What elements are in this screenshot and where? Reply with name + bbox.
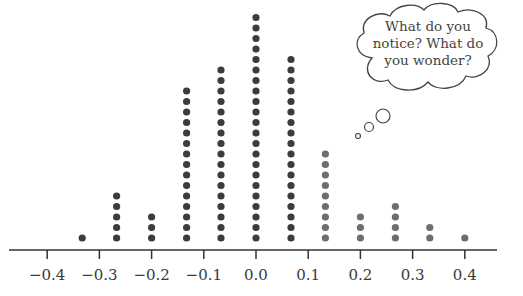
data-dot xyxy=(217,87,224,94)
data-dot xyxy=(217,171,224,178)
data-dot xyxy=(252,87,259,94)
data-dot xyxy=(322,213,329,220)
data-dot xyxy=(252,234,259,241)
data-dot xyxy=(252,14,259,21)
data-dot xyxy=(252,182,259,189)
dot-column xyxy=(426,224,433,242)
dot-column xyxy=(183,87,190,241)
data-dot xyxy=(183,224,190,231)
data-dot xyxy=(183,87,190,94)
data-dot xyxy=(183,171,190,178)
data-dot xyxy=(357,213,364,220)
data-dot xyxy=(217,98,224,105)
data-dot xyxy=(148,234,155,241)
data-dot xyxy=(287,119,294,126)
data-dot xyxy=(287,108,294,115)
data-dot xyxy=(287,224,294,231)
data-dot xyxy=(217,224,224,231)
data-dot xyxy=(252,119,259,126)
data-dot xyxy=(183,161,190,168)
data-dot xyxy=(392,203,399,210)
data-dot xyxy=(217,203,224,210)
data-dot xyxy=(287,87,294,94)
bubble-line-3: you wonder? xyxy=(363,52,493,69)
data-dot xyxy=(287,77,294,84)
data-dot xyxy=(426,224,433,231)
data-dot xyxy=(217,150,224,157)
data-dot xyxy=(183,213,190,220)
bubble-line-1: What do you xyxy=(363,18,493,35)
data-dot xyxy=(287,234,294,241)
data-dot xyxy=(183,140,190,147)
dot-column xyxy=(113,192,120,241)
data-dot xyxy=(113,203,120,210)
x-tick-label: −0.3 xyxy=(81,266,117,284)
data-dot xyxy=(287,129,294,136)
data-dot xyxy=(287,150,294,157)
data-dot xyxy=(252,171,259,178)
data-dot xyxy=(183,108,190,115)
data-dot xyxy=(183,234,190,241)
data-dot xyxy=(287,182,294,189)
thought-circle-medium xyxy=(365,123,374,132)
data-dot xyxy=(148,224,155,231)
thought-circle-small xyxy=(356,134,361,139)
data-dot xyxy=(252,35,259,42)
dot-column xyxy=(392,203,399,242)
data-dot xyxy=(357,224,364,231)
data-dot xyxy=(252,56,259,63)
data-dot xyxy=(217,192,224,199)
data-dot xyxy=(287,192,294,199)
data-dot xyxy=(322,182,329,189)
data-dot xyxy=(113,213,120,220)
data-dot xyxy=(217,213,224,220)
data-dot xyxy=(183,182,190,189)
data-dot xyxy=(392,234,399,241)
data-dot xyxy=(113,224,120,231)
data-dot xyxy=(148,213,155,220)
x-tick-label: −0.1 xyxy=(186,266,222,284)
data-dot xyxy=(322,161,329,168)
dot-column xyxy=(148,213,155,241)
data-dot xyxy=(287,161,294,168)
data-dot xyxy=(287,98,294,105)
data-dot xyxy=(252,192,259,199)
data-dot xyxy=(217,77,224,84)
data-dot xyxy=(79,234,86,241)
data-dot xyxy=(252,77,259,84)
data-dot xyxy=(322,192,329,199)
data-dot xyxy=(217,140,224,147)
data-dot xyxy=(392,224,399,231)
data-dot xyxy=(252,140,259,147)
data-dot xyxy=(426,234,433,241)
dot-column xyxy=(79,234,86,241)
data-dot xyxy=(113,192,120,199)
dot-column xyxy=(461,234,468,241)
data-dot xyxy=(322,224,329,231)
data-dot xyxy=(217,234,224,241)
x-tick-label: 0.2 xyxy=(348,266,372,284)
data-dot xyxy=(252,161,259,168)
x-tick-label: 0.1 xyxy=(296,266,320,284)
data-dot xyxy=(217,129,224,136)
dot-column xyxy=(357,213,364,241)
data-dot xyxy=(252,45,259,52)
data-dot xyxy=(183,150,190,157)
data-dot xyxy=(252,24,259,31)
dot-column xyxy=(322,150,329,241)
data-dot xyxy=(322,234,329,241)
data-dot xyxy=(252,98,259,105)
data-dot xyxy=(252,108,259,115)
dot-column xyxy=(252,14,259,242)
data-dot xyxy=(252,203,259,210)
data-dot xyxy=(252,66,259,73)
data-dot xyxy=(287,213,294,220)
data-dot xyxy=(287,66,294,73)
data-dot xyxy=(252,150,259,157)
data-dot xyxy=(183,192,190,199)
data-dot xyxy=(217,66,224,73)
x-tick-label: 0.3 xyxy=(401,266,425,284)
x-tick-label: −0.2 xyxy=(133,266,169,284)
data-dot xyxy=(287,140,294,147)
data-dot xyxy=(217,108,224,115)
